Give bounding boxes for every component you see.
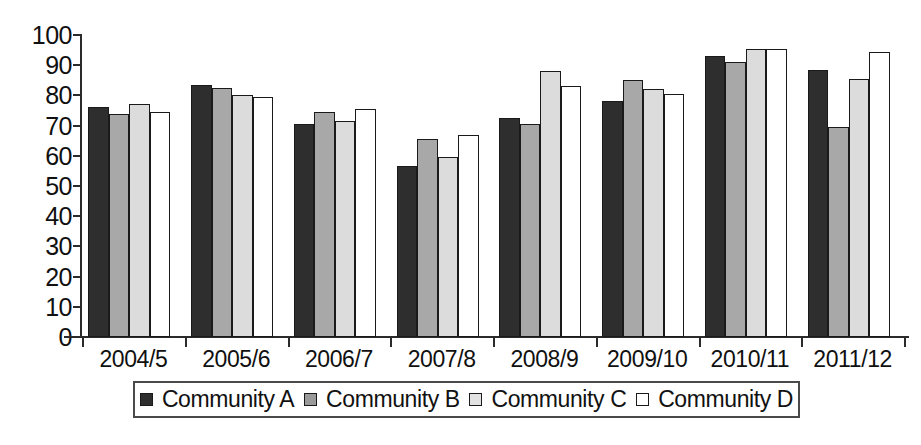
legend-item: Community C <box>469 387 626 412</box>
bar <box>561 86 582 337</box>
legend-swatch-icon <box>636 393 649 406</box>
y-axis-tick-label: 100 <box>10 23 72 48</box>
bar <box>623 80 644 337</box>
x-axis-category-label: 2006/7 <box>288 345 391 373</box>
bar <box>664 94 685 337</box>
bar-group <box>390 35 493 337</box>
y-axis-tick-label: 70 <box>10 114 72 139</box>
x-axis-category-label: 2007/8 <box>390 345 493 373</box>
bar <box>150 112 171 337</box>
bar <box>725 62 746 337</box>
bar <box>849 79 870 337</box>
x-axis-category-label: 2011/12 <box>801 345 904 373</box>
bar-group <box>185 35 288 337</box>
x-axis-separator <box>82 337 84 347</box>
bar <box>191 85 212 337</box>
bar <box>335 121 356 337</box>
y-axis-tick-label: 90 <box>10 53 72 78</box>
y-axis-tick-label: 40 <box>10 204 72 229</box>
bar <box>314 112 335 337</box>
bar <box>232 95 253 337</box>
y-axis-tick-mark <box>73 125 82 127</box>
bar <box>602 101 623 337</box>
bar-group <box>699 35 802 337</box>
bar <box>417 139 438 337</box>
legend-label: Community D <box>658 387 793 412</box>
legend-label: Community C <box>491 387 626 412</box>
bar <box>499 118 520 337</box>
x-axis-category-label: 2009/10 <box>596 345 699 373</box>
chart-legend: Community ACommunity BCommunity CCommuni… <box>133 381 800 418</box>
y-axis-tick-mark <box>73 276 82 278</box>
bar <box>109 114 130 337</box>
bar <box>212 88 233 337</box>
bar <box>129 104 150 337</box>
x-axis-category-label: 2005/6 <box>185 345 288 373</box>
bar <box>253 97 274 337</box>
y-axis-tick-label: 20 <box>10 265 72 290</box>
y-axis-tick-label: 30 <box>10 234 72 259</box>
bar-group <box>288 35 391 337</box>
y-axis-tick-mark <box>73 185 82 187</box>
bar <box>294 124 315 337</box>
legend-item: Community B <box>304 387 460 412</box>
bar-group <box>596 35 699 337</box>
bar <box>643 89 664 337</box>
bar <box>88 107 109 337</box>
bar-group <box>82 35 185 337</box>
x-axis-separator <box>904 337 906 347</box>
y-axis-tick-mark <box>73 245 82 247</box>
y-axis-tick-mark <box>73 215 82 217</box>
legend-swatch-icon <box>140 393 153 406</box>
y-axis-tick-mark <box>73 94 82 96</box>
y-axis-tick-labels: 1009080706050403020100 <box>10 24 72 346</box>
bar <box>746 49 767 337</box>
bar <box>355 109 376 337</box>
legend-label: Community A <box>162 387 294 412</box>
x-axis-category-label: 2010/11 <box>699 345 802 373</box>
bar <box>808 70 829 337</box>
legend-swatch-icon <box>304 393 317 406</box>
y-axis-tick-mark <box>73 336 82 338</box>
bar <box>869 52 890 337</box>
bar-group <box>801 35 904 337</box>
plot-area <box>82 35 904 337</box>
y-axis-tick-label: 80 <box>10 83 72 108</box>
y-axis-tick-mark <box>73 155 82 157</box>
legend-item: Community A <box>140 387 294 412</box>
y-axis-tick-label: 50 <box>10 174 72 199</box>
bar <box>705 56 726 337</box>
y-axis-tick-label: 10 <box>10 295 72 320</box>
bar <box>766 49 787 337</box>
y-axis-tick-label: 0 <box>10 325 72 350</box>
y-axis-tick-mark <box>73 306 82 308</box>
y-axis-tick-mark <box>73 34 82 36</box>
bar <box>458 135 479 337</box>
legend-swatch-icon <box>469 393 482 406</box>
bar <box>438 157 459 337</box>
x-axis-category-label: 2008/9 <box>493 345 596 373</box>
bar-group <box>493 35 596 337</box>
x-axis-category-label: 2004/5 <box>82 345 185 373</box>
y-axis-tick-mark <box>73 64 82 66</box>
bar <box>397 166 418 337</box>
legend-label: Community B <box>326 387 460 412</box>
bar <box>828 127 849 337</box>
y-axis-tick-label: 60 <box>10 144 72 169</box>
bar-chart: 1009080706050403020100 Community ACommun… <box>0 0 921 445</box>
legend-item: Community D <box>636 387 793 412</box>
bar <box>540 71 561 337</box>
bar <box>520 124 541 337</box>
